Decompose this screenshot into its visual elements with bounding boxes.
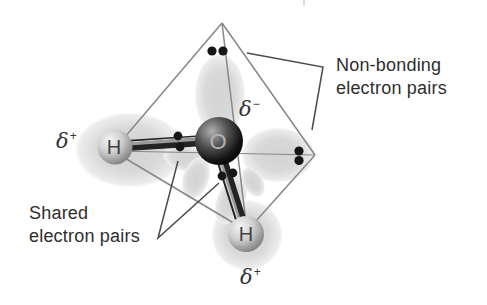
non-bonding-label: Non-bonding electron pairs	[336, 54, 447, 100]
oxygen-atom: O	[195, 117, 243, 165]
hydrogen-atom-left: H	[98, 130, 133, 165]
water-molecule-diagram: O H H Non-bonding electron pa	[0, 0, 487, 305]
oxygen-symbol: O	[209, 129, 226, 154]
scan-artifact	[303, 0, 305, 6]
delta-minus-oxygen: δ−	[239, 97, 260, 121]
shared-label-line2: electron pairs	[29, 225, 140, 248]
charge-sign: +	[254, 265, 261, 279]
charge-sign: −	[253, 97, 260, 111]
delta-symbol: δ	[56, 129, 69, 153]
delta-plus-hydrogen-bottom: δ+	[240, 265, 261, 289]
shared-label: Shared electron pairs	[29, 202, 140, 248]
hydrogen-bottom-symbol: H	[239, 223, 253, 245]
hydrogen-left-symbol: H	[107, 136, 121, 158]
delta-plus-hydrogen-left: δ+	[56, 129, 77, 153]
shared-label-line1: Shared	[29, 202, 140, 225]
hydrogen-atom-bottom: H	[228, 216, 264, 252]
charge-sign: +	[70, 129, 77, 143]
non-bonding-label-line1: Non-bonding	[336, 54, 447, 77]
delta-symbol: δ	[240, 265, 253, 289]
delta-symbol: δ	[239, 97, 252, 121]
non-bonding-label-line2: electron pairs	[336, 77, 447, 100]
